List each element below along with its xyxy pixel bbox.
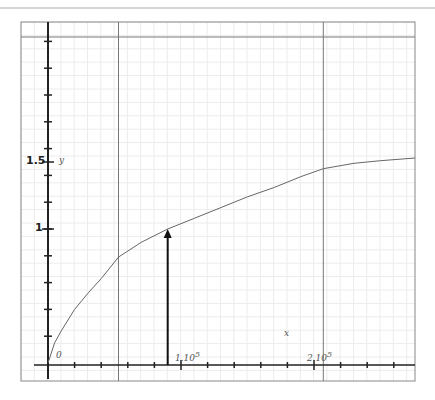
y-axis-label: y — [59, 155, 64, 165]
x-tick-label-1e5-mantissa: 1.10 — [175, 353, 195, 363]
x-axis-label: x — [284, 328, 289, 338]
x-tick-label-1e5: 1.105 — [175, 350, 200, 363]
origin-label: 0 — [56, 350, 62, 360]
x-tick-label-1e5-exp: 5 — [195, 350, 200, 359]
y-tick-label-1: 1 — [35, 221, 43, 234]
axis-ticks — [42, 41, 394, 370]
y-tick-label-1-5: 1.5 — [26, 154, 46, 167]
x-tick-label-2e5-exp: 5 — [327, 350, 332, 359]
grid — [21, 22, 415, 381]
x-tick-label-2e5: 2.105 — [307, 350, 332, 363]
x-tick-label-2e5-mantissa: 2.10 — [307, 353, 327, 363]
chart-canvas — [0, 0, 435, 400]
data-curve — [48, 158, 415, 363]
